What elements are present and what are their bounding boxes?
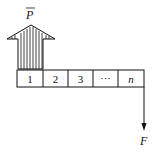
period-row: 1 2 3 ··· n bbox=[17, 70, 144, 87]
cash-flow-diagram: P 1 2 3 ··· n bbox=[0, 0, 152, 153]
f-label: F bbox=[139, 134, 148, 148]
downward-arrow-icon bbox=[142, 87, 147, 131]
p-label-text: P bbox=[25, 8, 34, 22]
upward-arrow-icon bbox=[7, 25, 55, 69]
period-ellipsis: ··· bbox=[100, 72, 111, 84]
period-2: 2 bbox=[53, 73, 59, 85]
period-n: n bbox=[128, 73, 134, 85]
period-3: 3 bbox=[78, 73, 84, 85]
period-1: 1 bbox=[27, 73, 33, 85]
p-bar-label: P bbox=[25, 8, 35, 22]
